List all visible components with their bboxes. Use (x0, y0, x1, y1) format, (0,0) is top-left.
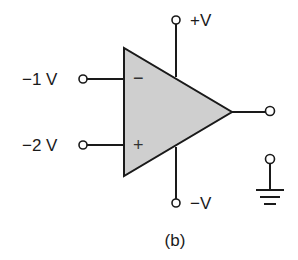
ground-icon (256, 164, 284, 204)
positive-supply-label: +V (190, 11, 212, 30)
ground-terminal (266, 155, 275, 164)
positive-supply-terminal (172, 16, 180, 24)
figure-caption: (b) (165, 231, 186, 250)
negative-supply-terminal (172, 199, 180, 207)
inverting-symbol: − (133, 68, 144, 88)
output-terminal (266, 107, 275, 116)
inverting-input-label: −1 V (22, 70, 58, 89)
noninverting-symbol: + (133, 135, 144, 155)
inverting-input-terminal (79, 75, 87, 83)
noninverting-input-label: −2 V (22, 136, 58, 155)
negative-supply-label: −V (190, 194, 212, 213)
noninverting-input-terminal (79, 141, 87, 149)
op-amp-diagram: −1 V −2 V − + +V −V (b) (0, 0, 298, 260)
